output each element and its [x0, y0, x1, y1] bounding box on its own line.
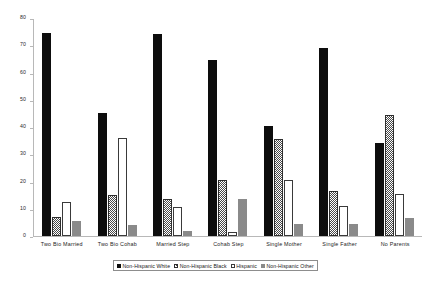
bar — [128, 225, 137, 236]
legend-label: Hispanic — [236, 263, 257, 269]
y-axis-tick-mark — [30, 101, 33, 102]
bar-groups — [34, 19, 422, 236]
y-axis-tick-label: 80 — [20, 15, 26, 20]
bar — [329, 191, 338, 236]
bar — [62, 202, 71, 236]
y-axis-tick-label: 10 — [20, 206, 26, 211]
bar — [349, 224, 358, 236]
bar — [153, 34, 162, 236]
legend-swatch-icon — [261, 264, 265, 268]
y-axis-tick-mark — [30, 210, 33, 211]
bar — [339, 206, 348, 236]
plot-area: 80706050403020100 — [33, 19, 422, 237]
legend-label: Non-Hispanic Other — [266, 263, 313, 269]
x-axis-category-label: Single Mother — [256, 241, 312, 247]
bar — [405, 218, 414, 236]
bar — [98, 113, 107, 236]
y-axis-tick-mark — [30, 183, 33, 184]
legend-item[interactable]: Non-Hispanic Other — [261, 263, 314, 269]
bar — [218, 180, 227, 236]
bar-group — [145, 19, 200, 236]
bar — [52, 217, 61, 236]
bar — [173, 207, 182, 236]
legend-item[interactable]: Hispanic — [231, 263, 257, 269]
bar — [284, 180, 293, 236]
bar — [385, 115, 394, 236]
x-axis-category-label: No Parents — [367, 241, 423, 247]
legend-label: Non-Hispanic Black — [180, 263, 227, 269]
bar — [264, 126, 273, 236]
legend-swatch-icon — [174, 264, 178, 268]
bar-group — [256, 19, 311, 236]
y-axis-tick-mark — [30, 155, 33, 156]
legend-label: Non-Hispanic White — [123, 263, 171, 269]
chart-legend: Non-Hispanic WhiteNon-Hispanic BlackHisp… — [113, 260, 318, 271]
legend-swatch-icon — [231, 264, 235, 268]
x-axis-category-label: Married Step — [145, 241, 201, 247]
y-axis-tick-label: 40 — [20, 124, 26, 129]
y-axis-tick-label: 60 — [20, 70, 26, 75]
y-axis-tick-mark — [30, 74, 33, 75]
y-axis-tick-mark — [30, 237, 33, 238]
bar — [395, 194, 404, 236]
bar — [72, 221, 81, 236]
legend-item[interactable]: Non-Hispanic Black — [174, 263, 227, 269]
y-axis-tick-label: 70 — [20, 42, 26, 47]
bar — [228, 232, 237, 236]
y-axis-tick-mark — [30, 128, 33, 129]
bar — [319, 48, 328, 236]
bar — [294, 224, 303, 236]
y-axis-tick-label: 30 — [20, 151, 26, 156]
bar — [42, 33, 51, 236]
x-axis-category-label: Single Father — [312, 241, 368, 247]
y-axis-tick-label: 50 — [20, 97, 26, 102]
y-axis-tick-mark — [30, 19, 33, 20]
bar — [238, 199, 247, 236]
legend-swatch-icon — [117, 264, 121, 268]
bar-group — [89, 19, 144, 236]
legend-item[interactable]: Non-Hispanic White — [117, 263, 170, 269]
y-axis-tick-label: 0 — [23, 233, 26, 238]
bar — [375, 143, 384, 236]
x-axis-line — [33, 236, 422, 237]
bar — [183, 231, 192, 236]
y-axis-tick-mark — [30, 46, 33, 47]
bar — [118, 138, 127, 236]
bar — [208, 60, 217, 236]
y-axis-tick-label: 20 — [20, 179, 26, 184]
x-axis-category-labels: Two Bio MarriedTwo Bio CohabMarried Step… — [34, 241, 423, 247]
x-axis-category-label: Two Bio Cohab — [90, 241, 146, 247]
bar-group — [311, 19, 366, 236]
bar-group — [34, 19, 89, 236]
bar — [163, 199, 172, 236]
bar-chart: 80706050403020100 Two Bio MarriedTwo Bio… — [0, 0, 443, 282]
bar-group — [200, 19, 255, 236]
bar — [108, 195, 117, 236]
x-axis-category-label: Cohab Step — [201, 241, 257, 247]
bar — [274, 139, 283, 236]
x-axis-category-label: Two Bio Married — [34, 241, 90, 247]
bar-group — [367, 19, 422, 236]
